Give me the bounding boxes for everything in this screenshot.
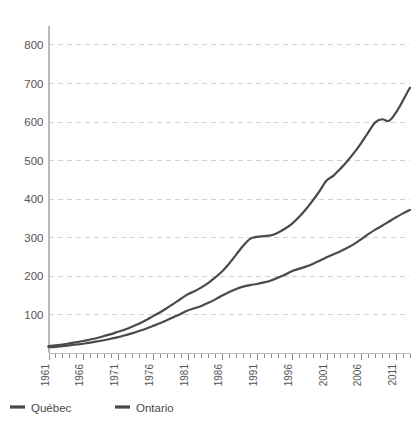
x-axis-tick-label: 1996	[283, 364, 294, 387]
y-axis-tick-label: 400	[24, 193, 43, 205]
legend-label-ontario[interactable]: Ontario	[136, 402, 174, 414]
series-line-qubec	[49, 88, 411, 346]
y-axis-tick-label: 300	[24, 232, 43, 244]
x-axis-tick-label: 2011	[387, 364, 398, 386]
gridlines-group	[49, 45, 411, 315]
y-axis-labels-group: 100200300400500600700800	[24, 39, 43, 321]
x-axis-tick-label: 1971	[109, 364, 120, 387]
series-line-ontario	[49, 210, 411, 347]
legend-label-qubec[interactable]: Québec	[31, 402, 72, 414]
x-tick-marks-group	[50, 354, 411, 360]
line-chart: 100200300400500600700800 196119661971197…	[0, 0, 420, 432]
x-axis-tick-label: 1986	[213, 364, 224, 387]
y-axis-tick-label: 700	[24, 78, 43, 90]
data-series-group	[49, 88, 411, 348]
x-axis-labels-group: 1961196619711976198119861991199620012006…	[40, 364, 399, 387]
chart-legend: QuébecOntario	[10, 402, 174, 414]
y-axis-tick-label: 200	[24, 270, 43, 282]
x-axis-tick-label: 1991	[248, 364, 259, 387]
x-axis-tick-label: 1976	[144, 364, 155, 387]
y-axis-tick-label: 600	[24, 116, 43, 128]
y-axis-tick-label: 100	[24, 309, 43, 321]
y-axis-tick-label: 500	[24, 155, 43, 167]
chart-svg: 100200300400500600700800 196119661971197…	[0, 0, 420, 432]
x-axis-tick-label: 2001	[318, 364, 329, 387]
x-axis-tick-label: 1966	[74, 364, 85, 387]
y-axis-tick-label: 800	[24, 39, 43, 51]
axes-group	[49, 26, 411, 354]
x-axis-tick-label: 1961	[40, 364, 51, 387]
x-axis-tick-label: 2006	[352, 364, 363, 387]
x-axis-tick-label: 1981	[179, 364, 190, 387]
